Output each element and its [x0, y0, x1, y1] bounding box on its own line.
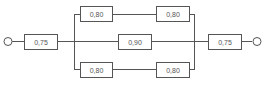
block-label: 0,75: [34, 39, 48, 46]
input-terminal: [4, 38, 12, 46]
block-series-out: 0,75: [209, 35, 242, 50]
block-label: 0,75: [218, 39, 232, 46]
block-label: 0,80: [166, 67, 180, 74]
block-middle: 0,90: [119, 35, 152, 50]
block-series-in: 0,75: [25, 35, 58, 50]
output-terminal: [253, 38, 261, 46]
reliability-diagram: 0,75 0,80 0,80 0,90 0,80 0,80 0,75: [0, 0, 266, 88]
block-upper-2: 0,80: [157, 7, 190, 22]
block-label: 0,80: [166, 11, 180, 18]
block-label: 0,80: [90, 67, 104, 74]
block-label: 0,80: [90, 11, 104, 18]
block-label: 0,90: [128, 39, 142, 46]
block-lower-2: 0,80: [157, 63, 190, 78]
block-upper-1: 0,80: [81, 7, 113, 22]
block-lower-1: 0,80: [81, 63, 113, 78]
